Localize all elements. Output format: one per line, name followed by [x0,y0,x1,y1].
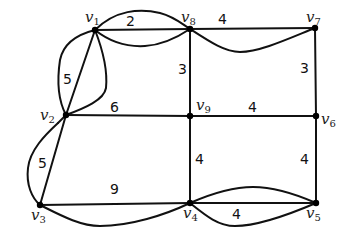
weight-v2-v9: 6 [110,99,119,115]
edge-v7-v6 [315,28,316,116]
edge-v2-v9 [66,115,190,116]
weight-v8-v7: 4 [218,11,227,27]
edge-v3-v4-arc [40,203,190,226]
node-v2 [63,112,69,118]
edge-v4-v5-arc-lower [190,203,316,226]
node-v6 [313,113,319,119]
label-v1: v1 [85,8,100,27]
label-v8: v8 [181,8,196,27]
weight-v1-v2: 5 [63,71,72,87]
edge-v1-v8-arc-lower [95,29,190,46]
label-v5: v5 [306,204,321,223]
edges [28,11,316,226]
node-v1 [92,27,98,33]
weight-v6-v5: 4 [300,151,309,167]
weight-v9-v6: 4 [248,99,257,115]
label-v7: v7 [306,8,321,27]
label-v9: v9 [196,96,211,115]
weight-v8-v9: 3 [178,61,187,77]
weight-v4-v5: 4 [232,206,241,222]
edge-v3-v4 [40,203,190,205]
edge-v4-v5-arc-upper [190,187,316,203]
node-v9 [187,113,193,119]
weight-v3-v4: 9 [110,181,119,197]
label-v6: v6 [321,110,336,129]
label-v3: v3 [31,206,46,225]
weight-v9-v4: 4 [195,151,204,167]
weight-v2-v3: 5 [38,155,47,171]
edge-v1-v8 [95,29,190,30]
edge-v8-v7 [190,28,315,29]
graph-diagram: v1 v8 v7 v2 v9 v6 v3 v4 v5 2 4 5 6 3 3 4… [0,0,356,242]
label-v2: v2 [40,106,55,125]
weight-v7-v6: 3 [300,60,309,76]
weight-v1-v8: 2 [126,13,135,29]
edge-v8-v7-arc [190,28,315,52]
edge-v1-v8-arc-upper [95,11,190,30]
edge-v1-v2-arc-right [66,30,106,115]
